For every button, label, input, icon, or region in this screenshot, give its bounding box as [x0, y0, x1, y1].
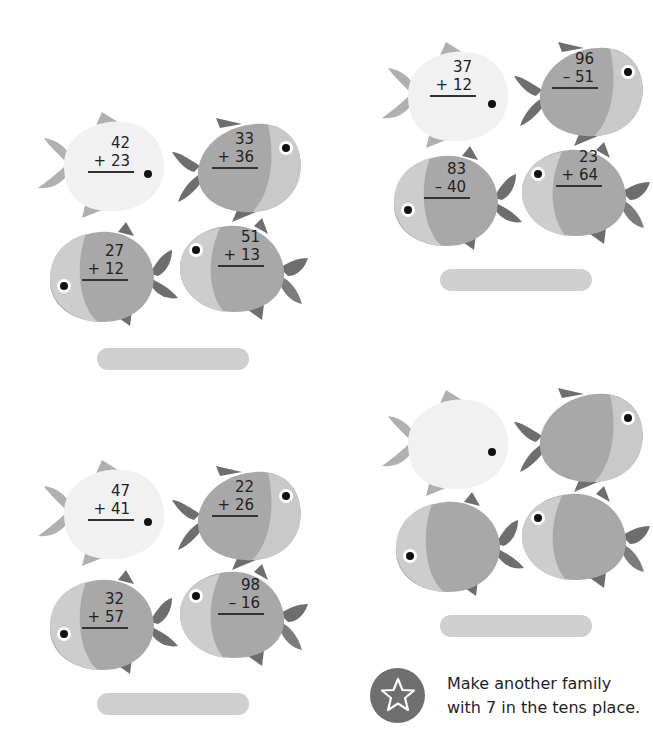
problem-bottom-number: + 41	[88, 500, 134, 521]
math-problem: 23 + 64	[556, 148, 602, 187]
prompt-line-2: with 7 in the tens place.	[447, 696, 640, 720]
answer-bar[interactable]	[440, 269, 592, 291]
fish-icon	[380, 388, 510, 498]
math-problem: 42 + 23	[88, 134, 134, 173]
problem-bottom-number: + 64	[556, 166, 602, 187]
fish-4a[interactable]	[380, 388, 510, 498]
fish-3d: 98 – 16	[176, 564, 311, 669]
problem-bottom-number: + 36	[212, 148, 258, 169]
fish-1b: 33 + 36	[172, 118, 302, 223]
math-problem: 37 + 12	[430, 58, 476, 97]
problem-top-number: 22	[212, 478, 258, 496]
fish-1c: 27 + 12	[46, 222, 181, 327]
problem-top-number: 83	[424, 160, 470, 178]
problem-top-number: 98	[218, 576, 264, 594]
problem-top-number: 37	[430, 58, 476, 76]
fish-4c[interactable]	[392, 492, 527, 597]
math-problem: 98 – 16	[218, 576, 264, 615]
problem-top-number: 47	[88, 482, 134, 500]
problem-top-number: 23	[556, 148, 602, 166]
math-problem: 27 + 12	[82, 242, 128, 281]
math-problem: 32 + 57	[82, 590, 128, 629]
problem-bottom-number: – 51	[552, 68, 598, 89]
fish-icon	[518, 486, 653, 591]
problem-bottom-number: + 23	[88, 152, 134, 173]
fish-2b: 96 – 51	[514, 42, 644, 147]
math-problem: 47 + 41	[88, 482, 134, 521]
fish-3c: 32 + 57	[46, 570, 181, 675]
math-problem: 22 + 26	[212, 478, 258, 517]
fish-1a: 42 + 23	[36, 110, 166, 220]
math-problem: 33 + 36	[212, 130, 258, 169]
star-icon	[379, 676, 417, 714]
problem-top-number: 27	[82, 242, 128, 260]
problem-top-number: 32	[82, 590, 128, 608]
problem-bottom-number: – 40	[424, 178, 470, 199]
problem-bottom-number: + 13	[218, 246, 264, 267]
problem-bottom-number: + 57	[82, 608, 128, 629]
problem-bottom-number: + 12	[430, 76, 476, 97]
fish-4b[interactable]	[514, 388, 644, 493]
star-badge	[370, 668, 425, 723]
answer-bar[interactable]	[97, 348, 249, 370]
problem-top-number: 51	[218, 228, 264, 246]
fish-icon	[392, 492, 527, 597]
answer-bar[interactable]	[440, 615, 592, 637]
math-problem: 96 – 51	[552, 50, 598, 89]
fish-3a: 47 + 41	[36, 458, 166, 568]
problem-top-number: 96	[552, 50, 598, 68]
prompt-line-1: Make another family	[447, 672, 640, 696]
problem-top-number: 42	[88, 134, 134, 152]
math-problem: 83 – 40	[424, 160, 470, 199]
problem-bottom-number: + 12	[82, 260, 128, 281]
problem-bottom-number: – 16	[218, 594, 264, 615]
fish-2d: 23 + 64	[518, 142, 653, 247]
fish-3b: 22 + 26	[172, 466, 302, 571]
math-problem: 51 + 13	[218, 228, 264, 267]
problem-top-number: 33	[212, 130, 258, 148]
answer-bar[interactable]	[97, 693, 249, 715]
fish-1d: 51 + 13	[176, 218, 311, 323]
fish-2a: 37 + 12	[380, 40, 510, 150]
challenge-prompt: Make another family with 7 in the tens p…	[447, 672, 640, 720]
problem-bottom-number: + 26	[212, 496, 258, 517]
fish-icon	[514, 388, 644, 493]
fish-4d[interactable]	[518, 486, 653, 591]
fish-2c: 83 – 40	[390, 146, 525, 251]
